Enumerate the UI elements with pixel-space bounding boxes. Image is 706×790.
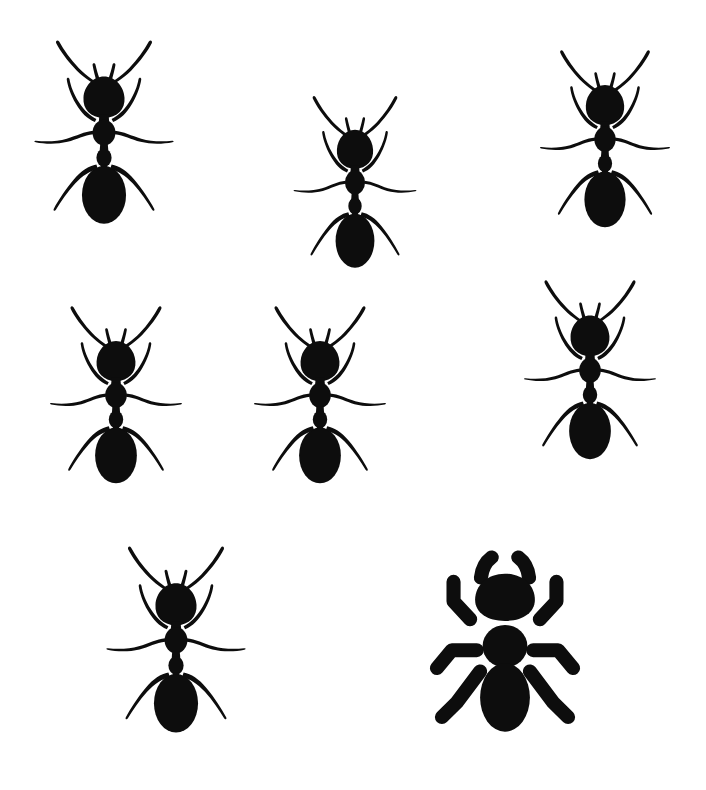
ant-figure: [288, 90, 422, 282]
ant-silhouette-glyph: [534, 44, 676, 242]
ant-silhouette-glyph: [288, 90, 422, 282]
ant-silhouette-glyph: [518, 274, 662, 474]
ant-figure: [248, 300, 392, 498]
ant-silhouette-glyph: [100, 540, 252, 748]
ant-figure: [28, 34, 180, 239]
ant-figure: [534, 44, 676, 242]
ant-figure: [100, 540, 252, 748]
ant-icon-glyph: [422, 528, 588, 748]
ant-figure: [422, 528, 588, 748]
ant-silhouette-glyph: [28, 34, 180, 239]
ant-silhouette-glyph: [248, 300, 392, 498]
ant-illustration-canvas: [0, 0, 706, 790]
ant-figure: [518, 274, 662, 474]
ant-figure: [44, 300, 188, 498]
ant-silhouette-glyph: [44, 300, 188, 498]
